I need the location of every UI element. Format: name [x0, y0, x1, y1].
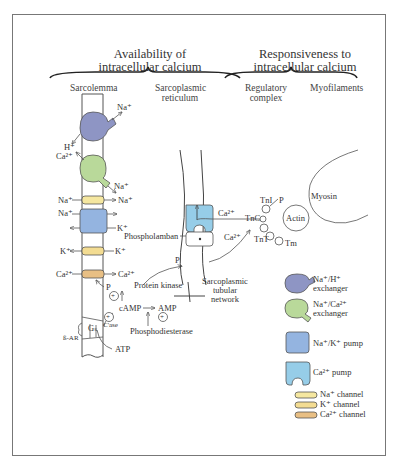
subheading-line: reticulum [155, 93, 205, 103]
label-cyclase: C'ase [103, 321, 118, 330]
plus-icon: + [160, 313, 164, 322]
label-na: Na⁺ [58, 209, 73, 218]
label-ca: Ca²⁺ [118, 270, 135, 279]
label-na: Na⁺ [118, 196, 133, 205]
label-phosphodiesterase: Phosphodiesterase [130, 327, 193, 336]
label-myosin: Myosin [311, 192, 337, 201]
legend-line: exchanger [313, 309, 348, 318]
label-line: network [195, 295, 255, 304]
k-channel-icon [70, 247, 114, 255]
label-tm: Tm [285, 239, 297, 248]
label-amp: AMP [158, 304, 176, 313]
label-tubular-network: Sarcoplasmic tubular network [195, 277, 255, 304]
legend-line: exchanger [313, 284, 348, 293]
label-ca: Ca²⁺ [218, 209, 235, 218]
subheading-regulatory: Regulatory complex [241, 83, 291, 103]
label-p: P [279, 196, 284, 205]
label-na: Na⁺ [117, 103, 132, 112]
na-k-pump-icon [70, 209, 117, 233]
label-ca: Ca²⁺ [224, 233, 241, 242]
subheading-line: Sarcoplasmic [155, 83, 205, 93]
label-p: P [106, 283, 111, 292]
na-channel-icon [72, 196, 116, 204]
legend-label-ca-channel: Ca²⁺ channel [320, 410, 366, 419]
subheading-myofilaments: Myofilaments [310, 83, 363, 93]
label-ca: Ca²⁺ [56, 270, 73, 279]
label-protein-kinase: Protein kinase [134, 281, 182, 290]
label-tnc: TnC [245, 214, 260, 223]
label-actin: Actin [286, 214, 305, 223]
subheading-sarcolemma: Sarcolemma [70, 83, 117, 93]
na-h-exchanger-icon [72, 112, 122, 144]
label-k: K⁺ [115, 247, 126, 256]
label-ca: Ca²⁺ [56, 152, 73, 161]
label-tni: TnI [260, 196, 272, 205]
legend-label-na-channel: Na⁺ channel [320, 390, 363, 399]
label-gs: Gₛ [88, 324, 97, 333]
legend-label-ca-pump: Ca²⁺ pump [313, 368, 351, 377]
ca-channel-icon [72, 270, 116, 278]
label-p: P [175, 256, 180, 265]
heading-availability: Availability of intracellular calcium [90, 48, 210, 74]
legend-label-k-channel: K⁺ channel [320, 400, 360, 409]
subheading-sr: Sarcoplasmic reticulum [155, 83, 205, 103]
subheading-line: Regulatory [241, 83, 291, 93]
label-camp: cAMP [119, 304, 141, 313]
label-na: Na⁺ [58, 196, 73, 205]
label-tnt: TnT [254, 235, 269, 244]
heading-line: intracellular calcium [90, 61, 210, 74]
label-na: Na⁺ [114, 182, 129, 191]
label-phospholamban: Phospholamban [124, 232, 178, 241]
legend-label-na-ca: Na⁺/Ca²⁺ exchanger [313, 300, 348, 318]
heading-line: intracellular calcium [250, 61, 360, 74]
subheading-line: complex [241, 93, 291, 103]
label-beta-ar: ß-AR [63, 334, 79, 343]
legend-label-na-k-pump: Na⁺/K⁺ pump [313, 339, 363, 348]
label-atp: ATP [115, 345, 130, 354]
heading-responsiveness: Responsiveness to intracellular calcium [250, 48, 360, 74]
plus-icon: + [111, 292, 115, 301]
label-k: K⁺ [60, 247, 71, 256]
myosin-arc [309, 150, 368, 223]
legend-label-na-h: Na⁺/H⁺ exchanger [313, 275, 348, 293]
